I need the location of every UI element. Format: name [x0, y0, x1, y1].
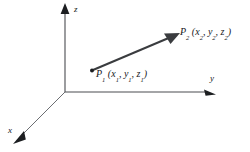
p2-coordinates: (x2, y2, z2) [192, 26, 231, 37]
x-axis-line [20, 92, 65, 137]
z-axis-arrowhead [61, 3, 70, 14]
x-axis-arrowhead [13, 131, 26, 144]
p1-point-marker [90, 69, 94, 73]
x-axis-label: x [8, 126, 12, 135]
p2-name-sub: 2 [186, 34, 189, 41]
p1-coordinates: (x1, y1, z1) [108, 68, 147, 79]
point-p2-label: P2 (x2, y2, z2) [180, 27, 231, 37]
vector-arrow-line [93, 37, 171, 70]
y-axis-label: y [210, 74, 214, 83]
p1-name-sub: 1 [102, 76, 105, 83]
y-axis-arrowhead [204, 90, 216, 96]
point-p1-label: P1 (x1, y1, z1) [96, 69, 147, 79]
vector-diagram-figure: z y x P1 (x1, y1, z1) P2 (x2, y2, z2) [0, 0, 250, 152]
z-axis-label: z [74, 5, 78, 14]
